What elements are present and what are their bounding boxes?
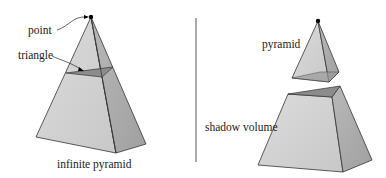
- caption-infinite-pyramid: infinite pyramid: [57, 158, 132, 171]
- point-arrowhead-icon: [84, 15, 89, 19]
- shadow-volume-front-face: [258, 94, 343, 172]
- pyramid-and-shadow-volume: pyramid shadow volume: [205, 19, 372, 172]
- label-shadow-volume: shadow volume: [205, 121, 278, 133]
- diagram: point triangle infinite pyramid pyramid …: [0, 0, 386, 178]
- point-marker: [89, 15, 93, 19]
- label-pyramid: pyramid: [262, 38, 301, 51]
- label-triangle: triangle: [18, 49, 53, 62]
- label-point: point: [28, 24, 52, 37]
- infinite-pyramid: point triangle infinite pyramid: [18, 15, 146, 171]
- apex-point-marker: [316, 19, 320, 23]
- point-arrow: [57, 17, 87, 30]
